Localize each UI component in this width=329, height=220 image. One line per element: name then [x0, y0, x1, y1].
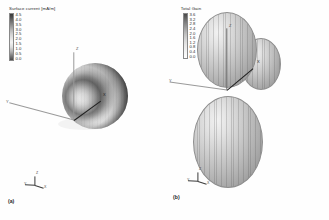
triad-label-y-b: Y [187, 179, 189, 183]
triad-axis-y-b [188, 180, 198, 181]
triad-label-x-a: X [44, 186, 46, 190]
axis-line-z-a [74, 52, 75, 120]
axis-label-y-a: Y [6, 100, 9, 104]
triad-label-z-b: Z [199, 168, 201, 172]
figure-container: Surface current [mA/m] 4.5 4.0 3.5 3.0 2… [0, 0, 329, 220]
panel-caption-a: (a) [8, 198, 14, 204]
triad-label-x-b: X [207, 182, 209, 186]
axis-label-z-a: Z [76, 47, 78, 51]
axis-triad-a: Z Y X [24, 172, 50, 194]
triad-axis-x-a [35, 185, 44, 189]
axis-label-z-b: Z [229, 24, 231, 28]
panel-caption-b: (b) [173, 194, 180, 200]
triad-label-z-a: Z [36, 172, 38, 176]
axis-triad-b: Z Y X [187, 168, 213, 190]
triad-axis-y-a [25, 184, 35, 185]
axis-label-x-b: X [257, 60, 260, 64]
panel-b: Total Gain 3.6 3.2 2.8 2.4 2.0 1.6 1.2 0… [165, 0, 329, 220]
triad-label-y-a: Y [24, 183, 26, 187]
axis-label-x-a: X [103, 93, 106, 97]
axis-line-z-b [227, 28, 228, 90]
triad-axis-x-b [198, 181, 207, 185]
panel-a: Surface current [mA/m] 4.5 4.0 3.5 3.0 2… [0, 0, 165, 220]
axis-label-y-b: Y [169, 79, 172, 83]
